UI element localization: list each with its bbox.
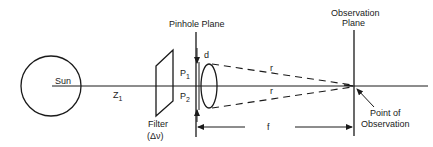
point-of-observation-label-line1: Point of (370, 108, 401, 118)
pinhole-interferometer-diagram: Sun Z1 Filter (Δν) Pinhole Plane d P1 P2… (0, 0, 433, 147)
filter-param-label: (Δν) (147, 131, 164, 141)
ray-lower-label: r (270, 86, 273, 96)
ray-upper-label: r (270, 63, 273, 73)
separation-label: d (204, 50, 209, 60)
ray-upper (212, 64, 352, 85)
filter-label: Filter (148, 119, 168, 129)
point-of-observation-label-line2: Observation (361, 119, 410, 129)
distance-label: Z1 (113, 90, 123, 102)
pinhole-plane-label: Pinhole Plane (169, 19, 225, 29)
sun-label: Sun (55, 76, 71, 86)
focal-distance-label: f (267, 122, 270, 132)
pinhole1-label: P1 (180, 68, 190, 80)
pinhole2-label: P2 (180, 91, 190, 103)
observation-plane-label-line2: Plane (342, 18, 365, 28)
observation-plane-label-line1: Observation (331, 8, 380, 18)
filter-shape (156, 50, 173, 116)
observation-point-pointer (357, 89, 374, 107)
ray-lower (212, 87, 352, 108)
